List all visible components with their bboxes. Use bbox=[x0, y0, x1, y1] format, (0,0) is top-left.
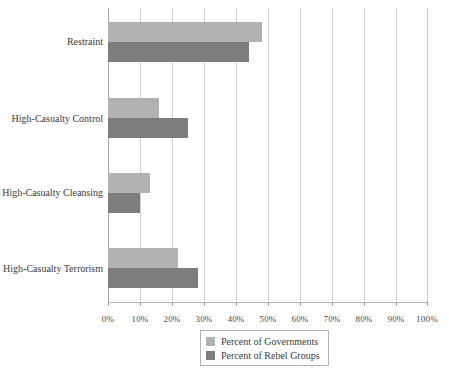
chart-legend: Percent of Governments Percent of Rebel … bbox=[200, 330, 329, 366]
category-label-high-casualty-cleansing: High-Casualty Cleansing bbox=[0, 187, 103, 198]
tick-mark-10 bbox=[140, 302, 141, 306]
gridline-90 bbox=[396, 8, 397, 302]
bar-governments-high-casualty-cleansing bbox=[108, 173, 150, 193]
bar-chart: Restraint High-Casualty Control High-Cas… bbox=[0, 0, 449, 368]
category-label-high-casualty-terrorism: High-Casualty Terrorism bbox=[0, 263, 103, 274]
bar-rebel-groups-restraint bbox=[108, 42, 249, 62]
xtick-label-100: 100% bbox=[407, 314, 447, 324]
gridline-80 bbox=[364, 8, 365, 302]
tick-mark-70 bbox=[332, 302, 333, 306]
tick-mark-0 bbox=[108, 302, 109, 306]
bar-governments-restraint bbox=[108, 22, 262, 42]
category-label-text: Restraint bbox=[67, 36, 103, 47]
legend-label-governments: Percent of Governments bbox=[221, 336, 318, 347]
bar-governments-high-casualty-terrorism bbox=[108, 248, 178, 268]
tick-mark-30 bbox=[204, 302, 205, 306]
category-label-text: High-Casualty Control bbox=[12, 113, 103, 124]
plot-area: 0% 10% 20% 30% 40% 50% 60% 70% 80% 90% 1… bbox=[108, 8, 428, 302]
bar-governments-high-casualty-control bbox=[108, 98, 159, 118]
tick-mark-100 bbox=[427, 302, 428, 306]
legend-item-rebel-groups: Percent of Rebel Groups bbox=[206, 348, 320, 362]
bar-rebel-groups-high-casualty-control bbox=[108, 118, 188, 138]
gridline-60 bbox=[300, 8, 301, 302]
bar-rebel-groups-high-casualty-cleansing bbox=[108, 193, 140, 213]
legend-label-rebel-groups: Percent of Rebel Groups bbox=[221, 350, 320, 361]
category-label-high-casualty-control: High-Casualty Control bbox=[0, 113, 103, 124]
tick-mark-80 bbox=[364, 302, 365, 306]
category-label-text: High-Casualty Terrorism bbox=[3, 263, 103, 274]
tick-mark-50 bbox=[268, 302, 269, 306]
bar-rebel-groups-high-casualty-terrorism bbox=[108, 268, 198, 288]
tick-mark-20 bbox=[172, 302, 173, 306]
legend-item-governments: Percent of Governments bbox=[206, 334, 320, 348]
gridline-50 bbox=[268, 8, 269, 302]
legend-swatch-icon-governments bbox=[206, 337, 215, 346]
tick-mark-60 bbox=[300, 302, 301, 306]
category-label-text: High-Casualty Cleansing bbox=[2, 187, 103, 198]
tick-mark-90 bbox=[396, 302, 397, 306]
legend-swatch-icon-rebel-groups bbox=[206, 351, 215, 360]
category-label-restraint: Restraint bbox=[0, 36, 103, 47]
gridline-70 bbox=[332, 8, 333, 302]
tick-mark-40 bbox=[236, 302, 237, 306]
gridline-100 bbox=[427, 8, 428, 302]
